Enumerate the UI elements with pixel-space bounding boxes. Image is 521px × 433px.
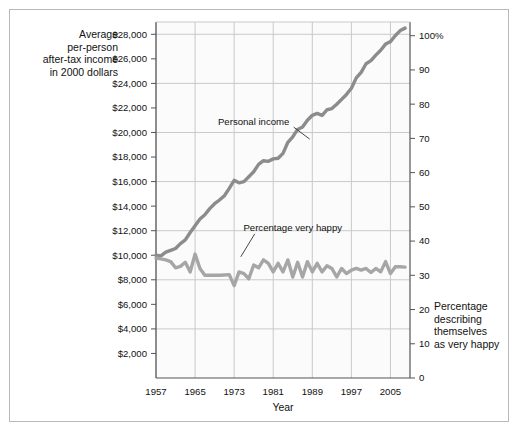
y-axis-left-tick-label: $4,000 — [118, 323, 147, 334]
y-axis-left-tick-label: $16,000 — [112, 176, 147, 187]
y-axis-left-tick-label: $18,000 — [112, 151, 147, 162]
y-axis-right-tick-label: 80 — [419, 99, 430, 110]
y-axis-left-tick-label: $20,000 — [112, 127, 147, 138]
x-axis-tick-label: 1957 — [145, 386, 166, 397]
y-axis-left-tick-label: $14,000 — [112, 201, 147, 212]
chart-canvas: $2,000$4,000$6,000$8,000$10,000$12,000$1… — [0, 0, 521, 433]
figure-container: Average per-person after-tax income in 2… — [0, 0, 521, 433]
y-axis-left-tick-label: $28,000 — [112, 29, 147, 40]
x-axis-tick-label: 1989 — [302, 386, 323, 397]
y-axis-right-tick-label: 90 — [419, 64, 430, 75]
series-label-personal-income: Personal income — [218, 116, 289, 127]
y-axis-right-tick-label: 40 — [419, 235, 430, 246]
x-axis-tick-label: 1981 — [263, 386, 284, 397]
x-axis-tick-label: 1973 — [223, 386, 244, 397]
x-axis-tick-label: 1997 — [341, 386, 362, 397]
x-axis-tick-label: 1965 — [184, 386, 205, 397]
y-axis-left-tick-label: $2,000 — [118, 348, 147, 359]
y-axis-right-tick-label: 0 — [419, 372, 424, 383]
y-axis-right-tick-label: 70 — [419, 133, 430, 144]
y-axis-left-tick-label: $8,000 — [118, 274, 147, 285]
x-axis-tick-label: 2005 — [380, 386, 401, 397]
y-axis-right-tick-label: 10 — [419, 338, 430, 349]
series-label-percentage-very-happy: Percentage very happy — [243, 222, 342, 233]
y-axis-right-tick-label: 50 — [419, 201, 430, 212]
y-axis-right-tick-label: 60 — [419, 167, 430, 178]
y-axis-left-tick-label: $24,000 — [112, 78, 147, 89]
y-axis-left-tick-label: $26,000 — [112, 53, 147, 64]
y-axis-left-tick-label: $10,000 — [112, 250, 147, 261]
plot-background — [156, 22, 410, 378]
y-axis-right-tick-label: 20 — [419, 304, 430, 315]
y-axis-left-tick-label: $6,000 — [118, 299, 147, 310]
y-axis-left-tick-label: $22,000 — [112, 102, 147, 113]
y-axis-left-tick-label: $12,000 — [112, 225, 147, 236]
y-axis-right-tick-label: 30 — [419, 270, 430, 281]
x-axis-title: Year — [272, 401, 294, 413]
y-axis-right-tick-label: 100% — [419, 30, 444, 41]
